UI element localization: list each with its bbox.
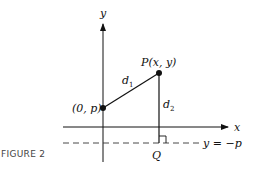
focus-label: (0, p): [72, 102, 102, 115]
right-angle-marker: [159, 136, 166, 143]
x-axis-label: x: [234, 121, 241, 134]
point-P: [156, 70, 162, 76]
segment-d1: [103, 73, 159, 108]
directrix-label: y = −p: [202, 137, 242, 150]
point-P-label: P(x, y): [140, 56, 176, 69]
y-axis-label: y: [99, 7, 107, 20]
d2-label: d2: [163, 98, 175, 113]
d1-label: d1: [122, 74, 134, 89]
parabola-diagram: y x y = −p d1 d2 (0, p) P(x, y) Q FIGURE…: [0, 0, 265, 175]
figure-caption: FIGURE 2: [1, 149, 45, 159]
point-Q-label: Q: [152, 149, 161, 162]
